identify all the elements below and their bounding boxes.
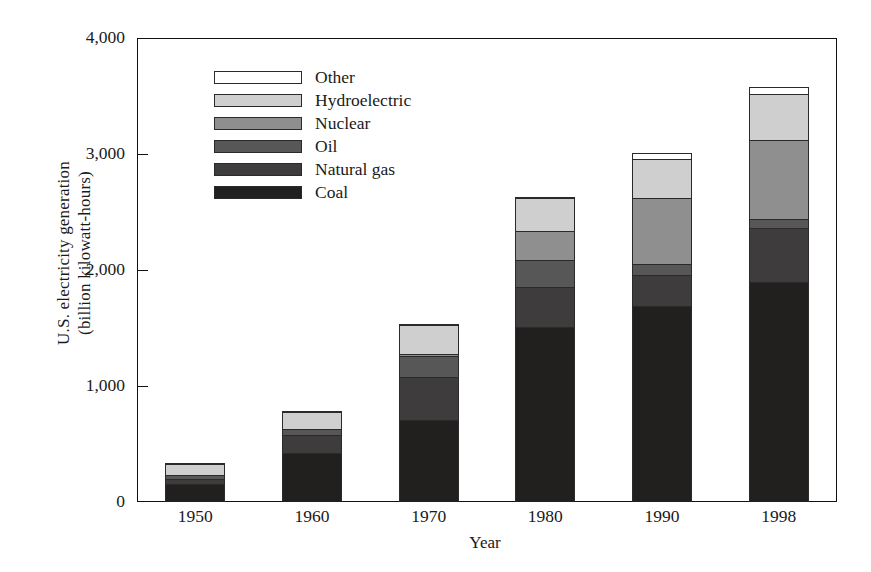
bar-segment-nuclear [515, 231, 575, 260]
bar-segment-oil [165, 475, 225, 479]
bar-segment-hydroelectric [399, 325, 459, 354]
legend-swatch-icon [214, 117, 302, 130]
legend-label: Other [315, 67, 355, 88]
bar-segment-coal [165, 484, 225, 502]
legend-label: Natural gas [315, 159, 395, 180]
bar-segment-hydroelectric [632, 159, 692, 197]
legend-label: Coal [315, 182, 348, 203]
bar-segment-other [165, 463, 225, 464]
bar-segment-nuclear [749, 140, 809, 219]
x-tick-label-1990: 1990 [617, 506, 707, 527]
y-tick-label: 1,000 [33, 375, 125, 396]
bar-segment-hydroelectric [749, 94, 809, 140]
bar-segment-coal [515, 327, 575, 502]
legend-item-nuclear: Nuclear [214, 112, 474, 135]
x-axis-ticks: 195019601970198019901998 [137, 506, 837, 534]
bar-1980 [515, 38, 575, 502]
bar-segment-hydroelectric [165, 464, 225, 474]
bar-segment-coal [749, 282, 809, 502]
bar-1990 [632, 38, 692, 502]
legend-swatch-icon [214, 94, 302, 107]
legend-swatch-icon [214, 71, 302, 84]
bar-segment-nuclear [632, 198, 692, 264]
bar-segment-other [399, 324, 459, 325]
bar-segment-nuclear [399, 354, 459, 356]
y-tick-label: 3,000 [33, 143, 125, 164]
bar-segment-oil [515, 260, 575, 288]
x-tick-label-1998: 1998 [734, 506, 824, 527]
legend-swatch-icon [214, 163, 302, 176]
x-tick-label-1950: 1950 [150, 506, 240, 527]
bar-segment-natural-gas [515, 287, 575, 326]
bar-segment-oil [632, 264, 692, 276]
bar-segment-coal [399, 420, 459, 502]
x-tick-label-1980: 1980 [500, 506, 590, 527]
bar-segment-natural-gas [632, 275, 692, 306]
legend-item-other: Other [214, 66, 474, 89]
bar-1998 [749, 38, 809, 502]
bar-segment-other [282, 411, 342, 412]
bar-segment-coal [632, 306, 692, 502]
x-tick-label-1960: 1960 [267, 506, 357, 527]
bar-segment-natural-gas [749, 228, 809, 281]
bar-segment-natural-gas [165, 479, 225, 484]
legend-label: Oil [315, 136, 337, 157]
bar-segment-natural-gas [282, 435, 342, 454]
bar-segment-coal [282, 453, 342, 502]
x-tick-label-1970: 1970 [384, 506, 474, 527]
bar-segment-other [632, 153, 692, 159]
y-tick-label: 2,000 [33, 259, 125, 280]
bar-segment-natural-gas [399, 377, 459, 421]
stacked-bar-chart: U.S. electricity generation (billion kil… [0, 0, 871, 572]
y-tick-label: 0 [33, 491, 125, 512]
chart-legend: OtherHydroelectricNuclearOilNatural gasC… [214, 66, 474, 204]
bar-segment-hydroelectric [282, 412, 342, 429]
bar-segment-oil [399, 356, 459, 377]
bar-segment-hydroelectric [515, 198, 575, 230]
legend-item-coal: Coal [214, 181, 474, 204]
legend-item-natural-gas: Natural gas [214, 158, 474, 181]
bar-segment-oil [749, 219, 809, 228]
legend-label: Hydroelectric [315, 90, 411, 111]
x-axis-title: Year [165, 533, 805, 553]
y-axis-title: U.S. electricity generation (billion kil… [53, 43, 95, 463]
legend-label: Nuclear [315, 113, 370, 134]
legend-item-hydroelectric: Hydroelectric [214, 89, 474, 112]
bar-segment-oil [282, 429, 342, 435]
bar-segment-other [515, 197, 575, 198]
legend-swatch-icon [214, 140, 302, 153]
bar-segment-other [749, 87, 809, 94]
legend-item-oil: Oil [214, 135, 474, 158]
y-tick-label: 4,000 [33, 27, 125, 48]
legend-swatch-icon [214, 186, 302, 199]
